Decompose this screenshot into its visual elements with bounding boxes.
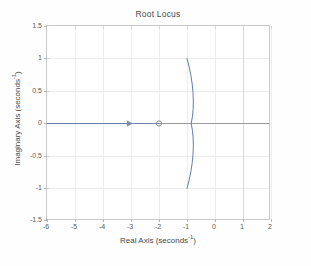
x-tick-labels: -6 -5 -4 -3 -2 -1 0 1 2 [46, 0, 270, 1]
gridline-vertical [271, 26, 272, 219]
x-tick-label: -4 [99, 223, 105, 230]
plot-area [46, 25, 270, 220]
x-tick-label: -6 [43, 223, 49, 230]
x-axis-label-tail: ) [193, 236, 196, 245]
x-tick-label: -3 [127, 223, 133, 230]
x-tick-label: -2 [155, 223, 161, 230]
y-tick-label: 0 [38, 119, 42, 126]
y-axis-label-tail: ) [13, 71, 22, 74]
complex-branch [187, 59, 193, 189]
y-axis-label: Imaginary Axis (seconds-1) [13, 24, 22, 214]
x-tick-label: -1 [183, 223, 189, 230]
y-tick-label: -0.5 [30, 152, 42, 159]
direction-arrow-icon [127, 121, 133, 127]
tick-bottom [271, 219, 272, 222]
figure-caption [0, 256, 311, 266]
x-tick-label: 2 [268, 223, 272, 230]
tick-top [271, 26, 272, 29]
x-axis-label: Real Axis (seconds-1) [46, 236, 270, 245]
y-tick-label: 1.5 [32, 22, 42, 29]
y-tick-label: -1 [36, 184, 42, 191]
x-tick-label: 0 [212, 223, 216, 230]
locus-traces [47, 26, 271, 221]
y-tick-label: 0.5 [32, 87, 42, 94]
page-title: Root Locus [46, 9, 270, 19]
y-axis-label-exponent: -1 [11, 74, 17, 79]
y-tick-label: -1.5 [30, 216, 42, 223]
x-tick-label: 1 [240, 223, 244, 230]
x-tick-label: -5 [71, 223, 77, 230]
y-axis-label-text: Imaginary Axis (seconds [13, 79, 22, 166]
root-locus-figure: Root Locus [0, 0, 311, 266]
y-tick-label: 1 [38, 54, 42, 61]
x-axis-label-text: Real Axis (seconds [120, 236, 188, 245]
